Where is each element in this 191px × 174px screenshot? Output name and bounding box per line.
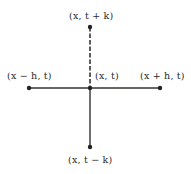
point-top xyxy=(88,25,92,29)
point-right xyxy=(158,86,162,90)
label-right: (x + h, t) xyxy=(140,71,185,81)
stencil-diagram: (x, t + k) (x − h, t) (x, t) (x + h, t) … xyxy=(0,0,191,174)
point-center xyxy=(88,86,92,90)
label-center: (x, t) xyxy=(95,71,119,81)
label-top: (x, t + k) xyxy=(69,11,113,21)
label-left: (x − h, t) xyxy=(7,71,52,81)
point-left xyxy=(27,86,31,90)
point-bottom xyxy=(88,145,92,149)
label-bottom: (x, t − k) xyxy=(68,155,112,165)
stencil-graphic xyxy=(0,0,191,174)
